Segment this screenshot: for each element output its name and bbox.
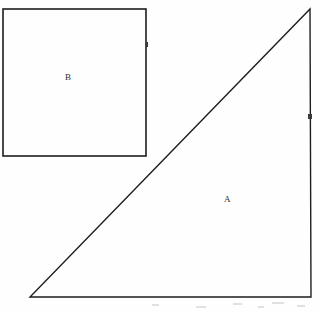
scan-speck [258, 306, 264, 308]
scan-speck [297, 305, 305, 307]
figure-canvas [0, 0, 318, 311]
geometry-figure: B A [0, 0, 318, 311]
scan-speck [152, 304, 159, 306]
scan-speck [233, 303, 242, 305]
square-b-label: B [65, 73, 71, 82]
triangle-a-label: A [224, 195, 231, 204]
scan-speck [272, 302, 284, 304]
scan-speck [196, 306, 206, 308]
tick-mark-square-right-edge [146, 42, 148, 47]
tick-mark-triangle-right-edge [308, 114, 312, 119]
